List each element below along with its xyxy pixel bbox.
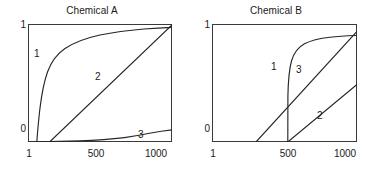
curve-b-1 (288, 36, 357, 143)
series-label-a-3: 3 (138, 129, 144, 140)
chart-panel-chemical-a: Chemical A 1 0 1 500 1000 1 2 3 (0, 0, 184, 178)
y-tick-b-1: 1 (188, 19, 210, 30)
x-tick-a-1: 1 (22, 148, 36, 159)
plot-area-a (28, 24, 172, 142)
x-tick-b-500: 500 (276, 148, 300, 159)
series-label-b-3: 3 (296, 64, 302, 75)
x-tick-b-1000: 1000 (330, 148, 360, 159)
panel-title-chemical-a: Chemical A (0, 4, 184, 17)
y-tick-a-0: 0 (4, 123, 26, 134)
plot-area-b (212, 24, 357, 142)
x-tick-a-500: 500 (84, 148, 108, 159)
x-tick-a-1000: 1000 (141, 148, 171, 159)
curve-b-3 (256, 32, 357, 143)
curve-a-3 (28, 130, 172, 142)
y-tick-b-0: 0 (188, 123, 210, 134)
curve-a-2 (50, 25, 172, 142)
series-label-a-1: 1 (34, 48, 40, 59)
figure-container: Chemical A 1 0 1 500 1000 1 2 3 Chemical… (0, 0, 368, 178)
panel-title-chemical-b: Chemical B (184, 4, 368, 17)
series-label-a-2: 2 (95, 71, 101, 82)
chart-panel-chemical-b: Chemical B 1 0 1 500 1000 1 3 2 (184, 0, 368, 178)
y-tick-a-1: 1 (4, 19, 26, 30)
x-tick-b-1: 1 (206, 148, 220, 159)
series-label-b-1: 1 (271, 61, 277, 72)
series-label-b-2: 2 (317, 110, 323, 121)
